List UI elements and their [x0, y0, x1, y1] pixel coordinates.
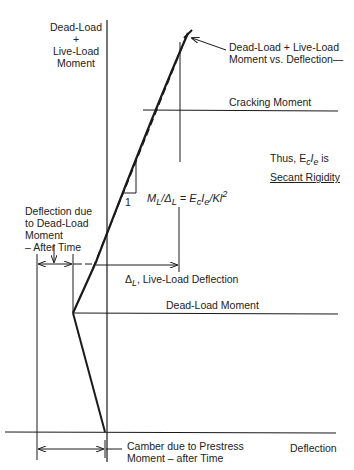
curve-label: Dead-Load + Live-Load Moment vs. Deflect… [229, 41, 343, 65]
moment-deflection-curve [73, 33, 188, 313]
cracking-moment-line [143, 110, 338, 111]
cracking-moment-label: Cracking Moment [229, 96, 311, 108]
secant-formula: ML/ΔL = EcIe/Kl2 [147, 188, 227, 208]
slope-unit-label: 1 [125, 196, 131, 208]
deflection-axis [5, 432, 336, 433]
x-axis-label: Deflection [290, 442, 337, 454]
camber-line [73, 313, 105, 432]
curve-label-leader [192, 38, 226, 50]
camber-label: Camber due to Prestress Moment – after T… [127, 440, 244, 464]
dead-load-moment-label: Dead-Load Moment [166, 299, 259, 311]
dead-load-moment-line [73, 313, 338, 314]
dead-load-deflection-label: Deflection due to Dead-Load Moment – Aft… [25, 205, 92, 253]
secant-rigidity-note: Thus, EcIe is Secant Rigidity [270, 152, 340, 183]
y-axis-label: Dead-Load + Live-Load Moment [40, 21, 112, 69]
live-load-deflection-label: ΔL, Live-Load Deflection [125, 273, 238, 289]
